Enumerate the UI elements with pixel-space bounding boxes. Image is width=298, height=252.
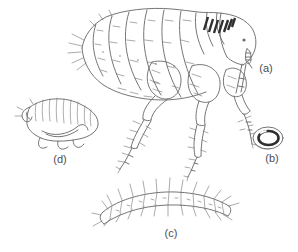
adult-flea-drawing	[68, 8, 256, 181]
pupa-appendage-sheaths	[42, 125, 88, 137]
flea-antenna	[246, 49, 252, 64]
pupa-hairs	[15, 99, 33, 116]
pupa-body-outline	[27, 99, 98, 141]
flea-coxae	[147, 61, 246, 102]
spiracle-dot	[119, 55, 120, 56]
spiracle-dot	[137, 59, 138, 60]
label-d: (d)	[53, 153, 66, 165]
flea-abdominal-segments	[93, 10, 198, 97]
flea-head-lines	[195, 13, 243, 65]
flea-life-stages-figure: (a) (b) (c) (d)	[0, 0, 298, 252]
label-a: (a)	[259, 62, 272, 74]
flea-front-leg	[234, 95, 252, 144]
larva-setae	[92, 178, 239, 226]
flea-middle-leg	[188, 101, 209, 177]
flea-larva-drawing	[92, 178, 239, 226]
flea-egg-drawing	[253, 127, 283, 149]
flea-eye	[242, 38, 245, 41]
label-c: (c)	[165, 227, 178, 239]
spiracle-dot	[155, 63, 156, 64]
larva-body-outline	[100, 192, 231, 224]
spiracle-dot	[102, 51, 103, 52]
figure-canvas: (a) (b) (c) (d)	[0, 0, 298, 252]
flea-pupa-drawing	[15, 98, 98, 149]
flea-rear-bristles	[68, 10, 112, 70]
label-b: (b)	[265, 152, 278, 164]
flea-hind-leg	[120, 96, 168, 169]
flea-mouthparts	[236, 62, 252, 93]
pupa-segment-lines	[35, 98, 91, 126]
